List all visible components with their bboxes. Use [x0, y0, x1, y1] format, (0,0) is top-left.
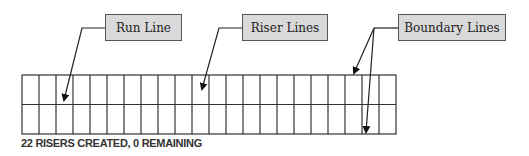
- riser-grid: [22, 75, 396, 134]
- riser-lines-callout: Riser Lines: [242, 14, 328, 41]
- boundary-lines-callout: Boundary Lines: [398, 14, 506, 41]
- boundary-lines-label: Boundary Lines: [404, 21, 499, 35]
- status-text: 22 RISERS CREATED, 0 REMAINING: [21, 137, 202, 149]
- riser-lines-leader: [202, 28, 242, 89]
- riser-lines-label: Riser Lines: [251, 21, 319, 35]
- run-line-label: Run Line: [116, 21, 171, 35]
- boundary-lines-leader: [354, 28, 398, 132]
- run-line-callout: Run Line: [105, 14, 182, 41]
- run-line-leader: [64, 28, 105, 100]
